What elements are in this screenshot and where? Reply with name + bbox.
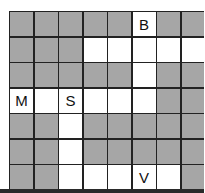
blocked-cell [59,12,82,36]
open-cell [133,89,156,113]
open-cell [59,114,82,138]
blocked-cell [84,114,107,138]
open-cell [133,63,156,87]
labeled-cell: V [133,165,156,189]
labeled-cell: M [10,89,33,113]
open-cell [35,89,58,113]
blocked-cell [84,12,107,36]
open-cell [108,165,131,189]
blocked-cell [35,140,58,164]
maze-grid: BMSV [9,11,204,190]
blocked-cell [182,140,205,164]
open-cell [84,89,107,113]
blocked-cell [182,165,205,189]
blocked-cell [84,63,107,87]
labeled-cell: S [59,89,82,113]
blocked-cell [10,114,33,138]
blocked-cell [108,140,131,164]
labeled-cell: B [133,12,156,36]
blocked-cell [10,63,33,87]
open-cell [108,89,131,113]
open-cell [84,165,107,189]
blocked-cell [157,12,180,36]
blocked-cell [108,12,131,36]
blocked-cell [182,12,205,36]
blocked-cell [10,140,33,164]
blocked-cell [10,38,33,62]
blocked-cell [157,63,180,87]
blocked-cell [84,140,107,164]
blocked-cell [35,38,58,62]
blocked-cell [35,12,58,36]
open-cell [108,38,131,62]
blocked-cell [59,63,82,87]
blocked-cell [10,12,33,36]
blocked-cell [182,63,205,87]
blocked-cell [108,63,131,87]
open-cell [157,38,180,62]
bottom-divider [0,189,204,193]
open-cell [59,140,82,164]
open-cell [59,165,82,189]
blocked-cell [157,140,180,164]
blocked-cell [157,89,180,113]
open-cell [84,38,107,62]
blocked-cell [182,89,205,113]
blocked-cell [59,38,82,62]
blocked-cell [133,114,156,138]
open-cell [157,165,180,189]
blocked-cell [35,165,58,189]
blocked-cell [10,165,33,189]
blocked-cell [108,114,131,138]
open-cell [182,38,205,62]
blocked-cell [157,114,180,138]
blocked-cell [35,63,58,87]
open-cell [133,38,156,62]
blocked-cell [182,114,205,138]
blocked-cell [133,140,156,164]
blocked-cell [35,114,58,138]
